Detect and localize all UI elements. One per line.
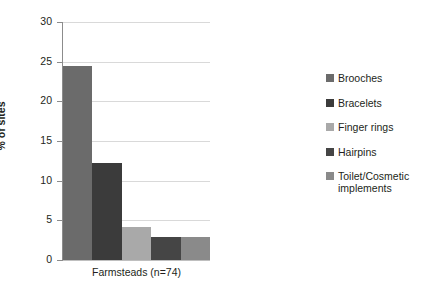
y-tick-label-30: 30 (14, 16, 52, 27)
legend-item-hairpins[interactable]: Hairpins (326, 146, 422, 158)
bar-finger-rings (122, 227, 151, 260)
gridline-25 (63, 62, 210, 63)
legend-swatch-icon (326, 148, 334, 156)
y-axis-title: % of sites (0, 101, 7, 150)
legend-label: Toilet/Cosmetic implements (338, 170, 422, 194)
y-tick-label-10: 10 (14, 175, 52, 186)
legend-item-bracelets[interactable]: Bracelets (326, 97, 422, 109)
legend-label: Hairpins (338, 146, 377, 158)
legend-label: Bracelets (338, 97, 382, 109)
bar-brooches (63, 66, 92, 260)
plot-area (63, 22, 210, 260)
bar-toilet-cosmetic-implements (181, 237, 210, 260)
legend-item-brooches[interactable]: Brooches (326, 72, 422, 84)
legend-label: Finger rings (338, 121, 393, 133)
bar-bracelets (92, 163, 121, 260)
bar-hairpins (151, 237, 180, 260)
legend-item-finger-rings[interactable]: Finger rings (326, 121, 422, 133)
x-axis-title: Farmsteads (n=74) (63, 266, 210, 278)
gridline-0 (63, 260, 210, 261)
legend-swatch-icon (326, 123, 334, 131)
legend: BroochesBraceletsFinger ringsHairpinsToi… (326, 72, 422, 207)
gridline-30 (63, 22, 210, 23)
legend-swatch-icon (326, 172, 334, 180)
y-tick-label-25: 25 (14, 56, 52, 67)
y-tick-label-20: 20 (14, 95, 52, 106)
legend-swatch-icon (326, 74, 334, 82)
bar-chart-figure: 051015202530 % of sites Farmsteads (n=74… (0, 0, 425, 291)
legend-label: Brooches (338, 72, 382, 84)
legend-swatch-icon (326, 99, 334, 107)
legend-item-toilet-cosmetic-implements[interactable]: Toilet/Cosmetic implements (326, 170, 422, 194)
y-tick-label-0: 0 (14, 254, 52, 265)
y-tick-label-5: 5 (14, 214, 52, 225)
y-tick-label-15: 15 (14, 135, 52, 146)
